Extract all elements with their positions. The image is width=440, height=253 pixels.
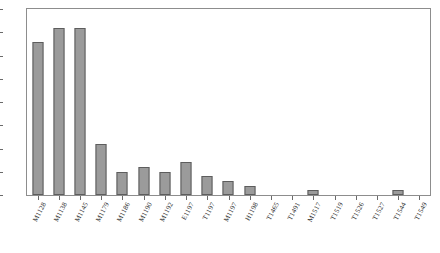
bar bbox=[393, 190, 404, 195]
x-axis-tick-label-text: M1190 bbox=[137, 201, 154, 223]
x-axis-tick-mark bbox=[59, 196, 60, 200]
x-axis-tick-label: M1128 bbox=[31, 201, 48, 223]
x-axis-tick-label: H1198 bbox=[243, 201, 259, 222]
x-axis-tick-mark bbox=[144, 196, 145, 200]
bar-slot bbox=[27, 9, 48, 195]
x-axis-tick-mark bbox=[398, 196, 399, 200]
x-axis-tick-label-text: H1198 bbox=[243, 201, 259, 222]
x-axis-tick-mark bbox=[80, 196, 81, 200]
x-axis-tick-mark bbox=[38, 196, 39, 200]
bar bbox=[138, 167, 149, 195]
bar-chart: 0510152025303540 M1128M1138M1145M1179M11… bbox=[0, 0, 440, 253]
x-axis-tick-mark bbox=[419, 196, 420, 200]
y-axis-tick-mark bbox=[0, 125, 3, 126]
x-axis-tick-mark bbox=[271, 196, 272, 200]
x-axis-tick-mark bbox=[313, 196, 314, 200]
x-axis-tick-mark bbox=[356, 196, 357, 200]
x-axis-tick-label-text: T1519 bbox=[328, 201, 344, 222]
x-axis-tick-label: T1527 bbox=[371, 201, 387, 222]
bar-slot bbox=[345, 9, 366, 195]
y-axis-tick-mark bbox=[0, 56, 3, 57]
bar bbox=[96, 144, 107, 195]
x-axis-tick-mark bbox=[165, 196, 166, 200]
bar-slot bbox=[175, 9, 196, 195]
bar-slot bbox=[409, 9, 430, 195]
bar-slot bbox=[324, 9, 345, 195]
x-axis-tick-mark bbox=[229, 196, 230, 200]
y-axis: 0510152025303540 bbox=[0, 0, 26, 204]
y-axis-tick-mark bbox=[0, 9, 3, 10]
x-axis-tick-label-text: E1197 bbox=[180, 201, 196, 222]
bar-slot bbox=[218, 9, 239, 195]
bar-slot bbox=[48, 9, 69, 195]
bar-slot bbox=[303, 9, 324, 195]
bar bbox=[32, 42, 43, 195]
x-axis-tick-label-text: M1179 bbox=[94, 201, 111, 223]
x-axis-tick-label-text: M1186 bbox=[116, 201, 133, 223]
x-axis-tick-label-text: T1197 bbox=[201, 201, 217, 222]
bars-layer bbox=[27, 9, 430, 195]
y-axis-tick-mark bbox=[0, 79, 3, 80]
x-axis-tick-label: M1138 bbox=[52, 201, 69, 223]
x-axis-tick-mark bbox=[250, 196, 251, 200]
bar bbox=[117, 172, 128, 195]
bar-slot bbox=[282, 9, 303, 195]
x-axis-labels: M1128M1138M1145M1179M1186M1190M1192E1197… bbox=[27, 201, 430, 253]
x-axis-tick-label-text: M1138 bbox=[52, 201, 69, 223]
x-axis-tick-label: T1491 bbox=[286, 201, 302, 222]
x-axis-tick-mark bbox=[377, 196, 378, 200]
x-axis-tick-label-text: T1526 bbox=[350, 201, 366, 222]
bar-slot bbox=[388, 9, 409, 195]
bar bbox=[244, 186, 255, 195]
x-axis-tick-mark bbox=[335, 196, 336, 200]
x-axis-tick-label: M1192 bbox=[158, 201, 175, 223]
bar-slot bbox=[260, 9, 281, 195]
x-axis-tick-mark bbox=[101, 196, 102, 200]
x-axis-tick-label: M1145 bbox=[73, 201, 90, 223]
x-axis-tick-label: E1197 bbox=[180, 201, 196, 222]
y-axis-tick-mark bbox=[0, 195, 3, 196]
x-axis-tick-label: T1465 bbox=[265, 201, 281, 222]
x-axis-tick-label-text: T1549 bbox=[413, 201, 429, 222]
x-axis-tick-mark bbox=[122, 196, 123, 200]
bar-slot bbox=[69, 9, 90, 195]
bar bbox=[202, 176, 213, 195]
bar bbox=[308, 190, 319, 195]
x-axis-tick-label: M1179 bbox=[94, 201, 111, 223]
x-axis-tick-label: T1197 bbox=[201, 201, 217, 222]
bar-slot bbox=[239, 9, 260, 195]
x-axis-tick-label: M1197 bbox=[222, 201, 239, 223]
x-axis-tick-label-text: T1527 bbox=[371, 201, 387, 222]
x-axis-tick-label-text: M1128 bbox=[31, 201, 48, 223]
bar bbox=[75, 28, 86, 195]
x-axis-tick-mark bbox=[292, 196, 293, 200]
x-axis-tick-label: M1186 bbox=[116, 201, 133, 223]
bar bbox=[223, 181, 234, 195]
x-axis-tick-label-text: T1465 bbox=[265, 201, 281, 222]
bar-slot bbox=[154, 9, 175, 195]
y-axis-tick-mark bbox=[0, 172, 3, 173]
x-axis-tick-label-text: T1491 bbox=[286, 201, 302, 222]
bar-slot bbox=[366, 9, 387, 195]
x-axis-tick-mark bbox=[207, 196, 208, 200]
x-axis-tick-label-text: M1145 bbox=[73, 201, 90, 223]
y-axis-tick-mark bbox=[0, 32, 3, 33]
x-axis-tick-label-text: M1517 bbox=[306, 201, 323, 224]
x-axis-tick-label-text: T1544 bbox=[392, 201, 408, 222]
bar bbox=[53, 28, 64, 195]
x-axis-tick-label: T1544 bbox=[392, 201, 408, 222]
x-axis-tick-label-text: M1197 bbox=[222, 201, 239, 223]
x-axis-tick-mark bbox=[186, 196, 187, 200]
x-axis-tick-label: T1519 bbox=[328, 201, 344, 222]
bar-slot bbox=[112, 9, 133, 195]
bar-slot bbox=[197, 9, 218, 195]
x-axis-tick-label: T1549 bbox=[413, 201, 429, 222]
bar bbox=[181, 162, 192, 195]
bar bbox=[159, 172, 170, 195]
y-axis-tick-mark bbox=[0, 149, 3, 150]
x-axis-tick-label: M1190 bbox=[137, 201, 154, 223]
bar-slot bbox=[133, 9, 154, 195]
bar-slot bbox=[91, 9, 112, 195]
y-axis-tick-mark bbox=[0, 102, 3, 103]
x-axis-tick-label: T1526 bbox=[350, 201, 366, 222]
